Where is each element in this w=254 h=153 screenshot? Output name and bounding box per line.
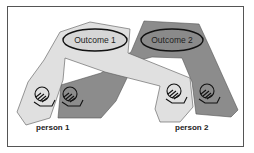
person-1-label: person 1 <box>36 123 69 132</box>
outcome-1-label: Outcome 1 <box>63 35 127 45</box>
person-2-label: person 2 <box>175 123 208 132</box>
outcome-2-label: Outcome 2 <box>141 35 203 45</box>
